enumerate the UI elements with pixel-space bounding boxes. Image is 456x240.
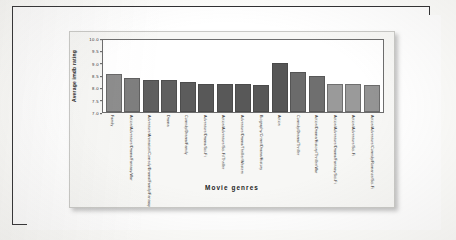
bar bbox=[364, 85, 380, 112]
bar bbox=[309, 76, 325, 112]
bar bbox=[235, 84, 251, 112]
bar bbox=[124, 78, 140, 112]
y-tick-label: 8.0 bbox=[92, 86, 99, 91]
x-tick-label-text: Action/Drama/History/Thriller/War bbox=[314, 115, 318, 173]
x-tick-label-text: Adventure/Animation/Comedy/Drama/Family/… bbox=[147, 115, 151, 207]
y-tick-label: 10.0 bbox=[89, 37, 99, 42]
x-tick-label-text: Action/Adventure/Drama/Fantasy/Sci-Fi bbox=[332, 115, 336, 184]
bar bbox=[198, 84, 214, 112]
outer-photo-frame: Data Analysis Average imdb rating 10.09.… bbox=[12, 6, 430, 225]
bar bbox=[217, 84, 233, 112]
bar bbox=[180, 82, 196, 112]
x-axis-title: Movie genres bbox=[70, 184, 394, 191]
x-tick-label-text: Action/Adventure/Sci-Fi/Thriller bbox=[221, 115, 225, 169]
white-paper-background: Data Analysis Average imdb rating 10.09.… bbox=[27, 15, 441, 230]
screenshot-page: Data Analysis Average imdb rating 10.09.… bbox=[0, 0, 456, 240]
x-tick-label-text: Action/Adventure/Comedy/Romance/Sci-Fi bbox=[369, 115, 373, 189]
y-axis-ticks: 10.09.59.08.58.07.57.0 bbox=[70, 39, 101, 113]
chart-panel: Data Analysis Average imdb rating 10.09.… bbox=[69, 31, 395, 208]
bar bbox=[106, 74, 122, 112]
bar bbox=[161, 80, 177, 112]
x-tick-label-text: Adventure/Drama/Sci-Fi bbox=[202, 115, 206, 157]
bar-series bbox=[103, 40, 383, 112]
x-tick-label-text: Biography/Crime/Drama/History bbox=[258, 115, 262, 170]
y-tick-label: 9.5 bbox=[92, 49, 99, 54]
bar bbox=[327, 84, 343, 112]
y-tick-label: 9.0 bbox=[92, 61, 99, 66]
x-tick-label-text: Drama bbox=[165, 115, 169, 127]
x-tick-label-text: Family bbox=[109, 115, 113, 126]
y-tick-label: 8.5 bbox=[92, 74, 99, 79]
bar bbox=[143, 80, 159, 112]
plot-area bbox=[102, 39, 384, 113]
x-tick-label-text: Comedy/Drama/Family bbox=[184, 115, 188, 155]
bar bbox=[253, 85, 269, 112]
bar bbox=[345, 84, 361, 112]
bar bbox=[290, 72, 306, 112]
x-tick-label-text: Action/Adventure/Sci-Fi bbox=[351, 115, 355, 156]
y-tick-label: 7.5 bbox=[92, 98, 99, 103]
x-tick-label-text: Adventure/Drama/Thriller/Western bbox=[239, 115, 243, 174]
x-tick-label-text: Comedy/Drama/Thriller bbox=[295, 115, 299, 155]
x-tick-label-text: Action bbox=[276, 115, 280, 126]
x-tick-label-text: Action/Adventure/Drama/Fantasy/War bbox=[128, 115, 132, 181]
bar bbox=[272, 63, 288, 112]
y-tick-label: 7.0 bbox=[92, 111, 99, 116]
